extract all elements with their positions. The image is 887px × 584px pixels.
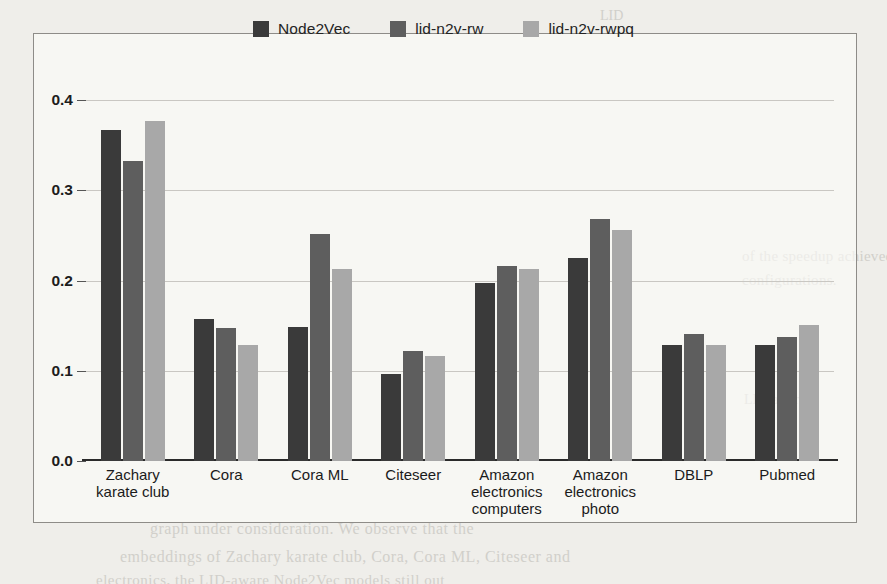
legend-swatch-icon — [523, 21, 539, 37]
x-axis-category-label-line: Citeseer — [385, 466, 441, 483]
y-axis-tick-label: 0.1 — [51, 362, 73, 380]
x-axis-category-label: Amazonelectronicsphoto — [564, 466, 636, 517]
legend-label: Node2Vec — [278, 20, 350, 38]
bar — [612, 230, 632, 461]
x-axis-category-label: Cora ML — [291, 466, 349, 483]
bar — [310, 234, 330, 461]
x-axis-category-label: Zacharykarate club — [96, 466, 169, 500]
chart-legend: Node2Veclid-n2v-rwlid-n2v-rwpq — [0, 20, 887, 38]
x-axis-category-label-line: photo — [564, 500, 636, 517]
legend-entry: lid-n2v-rwpq — [523, 20, 634, 38]
bar-group — [381, 100, 445, 461]
x-axis-category-label-line: Zachary — [96, 466, 169, 483]
legend-swatch-icon — [253, 21, 269, 37]
legend-label: lid-n2v-rw — [415, 20, 483, 38]
x-axis-category-label-line: Amazon — [471, 466, 543, 483]
bar — [145, 121, 165, 461]
y-axis-tick-label: 0.2 — [51, 272, 73, 290]
x-axis-category-label: Cora — [210, 466, 243, 483]
bar-group — [568, 100, 632, 461]
bar-group — [288, 100, 352, 461]
y-axis-tick-mark — [77, 461, 86, 462]
x-axis-category-labels: Zacharykarate clubCoraCora MLCiteseerAma… — [86, 466, 834, 524]
bar — [123, 161, 143, 461]
bar-group — [755, 100, 819, 461]
bar — [288, 327, 308, 461]
y-axis-tick-label: 0.3 — [51, 181, 73, 199]
bar — [381, 374, 401, 461]
bar — [497, 266, 517, 461]
legend-entry: lid-n2v-rw — [390, 20, 483, 38]
x-axis-category-label-line: Amazon — [564, 466, 636, 483]
bar — [475, 283, 495, 461]
background-bleed-text-bottom-3: electronics, the LID-aware Node2Vec mode… — [96, 572, 445, 584]
x-axis-category-label: Pubmed — [759, 466, 815, 483]
legend-swatch-icon — [390, 21, 406, 37]
y-axis-tick-label: 0.4 — [51, 91, 73, 109]
y-axis-tick-mark — [77, 100, 86, 101]
x-axis-category-label-line: DBLP — [674, 466, 713, 483]
x-axis-category-label-line: Pubmed — [759, 466, 815, 483]
bar — [403, 351, 423, 461]
bar — [799, 325, 819, 461]
bar — [684, 334, 704, 461]
x-axis-category-label: Amazonelectronicscomputers — [471, 466, 543, 517]
bar — [238, 345, 258, 461]
x-axis-category-label: Citeseer — [385, 466, 441, 483]
y-axis-tick-mark — [77, 371, 86, 372]
bar — [662, 345, 682, 461]
y-axis-tick-label: 0.0 — [51, 452, 73, 470]
bar — [568, 258, 588, 461]
bar — [425, 356, 445, 461]
x-axis-category-label: DBLP — [674, 466, 713, 483]
y-axis-tick-mark — [77, 281, 86, 282]
bar-group — [101, 100, 165, 461]
bar — [101, 130, 121, 461]
bars-layer — [86, 100, 834, 461]
x-axis-category-label-line: electronics — [564, 483, 636, 500]
bar — [590, 219, 610, 461]
bar — [755, 345, 775, 461]
bar — [332, 269, 352, 461]
bar-group — [662, 100, 726, 461]
x-axis-category-label-line: Cora — [210, 466, 243, 483]
x-axis-category-label-line: karate club — [96, 483, 169, 500]
background-bleed-text-bottom-2: embeddings of Zachary karate club, Cora,… — [120, 548, 570, 566]
bar — [706, 345, 726, 461]
bar — [519, 269, 539, 461]
x-axis-category-label-line: Cora ML — [291, 466, 349, 483]
x-axis-category-label-line: electronics — [471, 483, 543, 500]
bar-group — [194, 100, 258, 461]
x-axis-category-label-line: computers — [471, 500, 543, 517]
bar — [216, 328, 236, 461]
legend-entry: Node2Vec — [253, 20, 350, 38]
y-axis-tick-mark — [77, 190, 86, 191]
bar-group — [475, 100, 539, 461]
bar — [777, 337, 797, 461]
legend-label: lid-n2v-rwpq — [548, 20, 634, 38]
bar — [194, 319, 214, 461]
chart-plot-area: 0.40.30.20.10.0 — [86, 100, 834, 461]
